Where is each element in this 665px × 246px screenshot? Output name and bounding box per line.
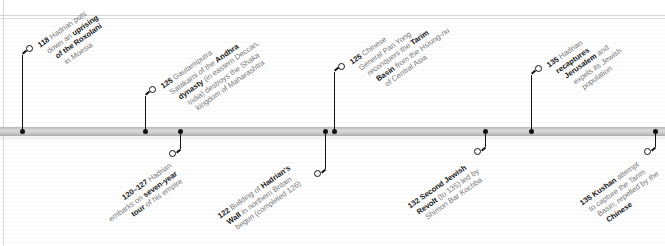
event-stem [180,131,182,149]
event-ring-icon [169,150,176,157]
event-ring-icon [149,86,156,93]
left-frame-rule [3,0,4,246]
event-ring-icon [26,45,33,52]
event-ring-icon [535,65,542,72]
event-stem [531,75,533,131]
top-frame [0,0,665,16]
timeline-bar-shadow [0,136,665,142]
event-ring-icon [314,170,321,177]
event-ring-icon [338,63,345,70]
event-stem [485,131,487,147]
event-ring-icon [474,148,481,155]
event-stem [325,131,327,169]
event-stem [145,96,147,131]
event-stem [334,72,336,131]
event-stem [22,55,24,131]
event-stem [655,131,657,147]
